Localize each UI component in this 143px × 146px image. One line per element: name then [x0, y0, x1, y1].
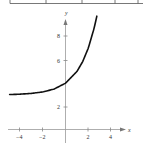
x-axis-arrow-icon	[120, 128, 126, 132]
y-tick-label: 6	[57, 58, 60, 64]
y-axis-arrow-icon	[64, 19, 68, 25]
table-remnant	[10, 0, 143, 4]
y-axis-label: y	[64, 10, 68, 16]
y-tick-label: 2	[57, 104, 60, 110]
x-axis-label: x	[127, 127, 131, 133]
x-tick-label: −2	[39, 134, 45, 140]
chart: −4 −2 2 4 2 6 8 x y	[0, 0, 143, 146]
x-tick-label: 4	[109, 134, 112, 140]
y-tick-label: 8	[57, 33, 60, 39]
x-tick-label: −4	[16, 134, 22, 140]
x-tick-label: 2	[87, 134, 90, 140]
curve-line	[10, 16, 97, 94]
